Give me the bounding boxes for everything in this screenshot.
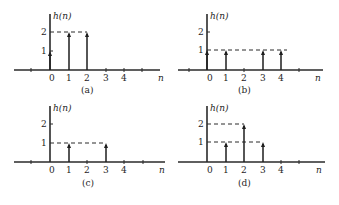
x-tick-0: 0 bbox=[49, 165, 55, 175]
y-tick-2: 2 bbox=[41, 27, 47, 37]
x-tick-1: 1 bbox=[66, 73, 72, 83]
y-axis-label: h(n) bbox=[53, 11, 72, 21]
panel-caption: (a) bbox=[81, 85, 93, 95]
figure-canvas: h(n) 2 1 0 1 2 3 4 n (a) h(n) 2 1 0 1 2 … bbox=[0, 0, 339, 205]
x-tick-2: 2 bbox=[241, 73, 247, 83]
x-tick-3: 3 bbox=[103, 165, 109, 175]
arrow-icon bbox=[224, 50, 228, 55]
y-tick-1: 1 bbox=[198, 45, 204, 55]
y-tick-2: 2 bbox=[41, 119, 47, 129]
panel-d: h(n) 2 1 0 1 2 3 4 n (d) bbox=[178, 103, 325, 188]
x-tick-0: 0 bbox=[207, 165, 213, 175]
arrow-icon bbox=[48, 51, 52, 56]
y-axis-label: h(n) bbox=[210, 11, 229, 21]
x-tick-0: 0 bbox=[207, 73, 213, 83]
arrow-icon bbox=[85, 32, 89, 37]
x-tick-4: 4 bbox=[278, 165, 284, 175]
arrow-icon bbox=[242, 124, 246, 129]
panel-caption: (d) bbox=[238, 178, 251, 188]
x-tick-4: 4 bbox=[278, 73, 284, 83]
x-tick-1: 1 bbox=[66, 165, 72, 175]
y-tick-1: 1 bbox=[41, 138, 47, 148]
y-tick-1: 1 bbox=[198, 137, 204, 147]
x-tick-3: 3 bbox=[260, 165, 266, 175]
y-tick-1: 1 bbox=[41, 46, 47, 56]
arrow-icon bbox=[224, 142, 228, 147]
x-tick-4: 4 bbox=[121, 165, 127, 175]
arrow-icon bbox=[104, 143, 108, 148]
y-tick-2: 2 bbox=[198, 119, 204, 129]
x-axis-label: n bbox=[158, 73, 164, 83]
x-tick-2: 2 bbox=[84, 73, 90, 83]
x-axis-label: n bbox=[315, 73, 321, 83]
arrow-icon bbox=[279, 50, 283, 55]
arrow-icon bbox=[261, 142, 265, 147]
panel-caption: (c) bbox=[82, 178, 94, 188]
x-tick-0: 0 bbox=[49, 73, 55, 83]
x-tick-4: 4 bbox=[121, 73, 127, 83]
x-tick-1: 1 bbox=[223, 165, 229, 175]
y-axis-label: h(n) bbox=[210, 103, 229, 113]
y-axis-label: h(n) bbox=[53, 103, 72, 113]
x-tick-2: 2 bbox=[241, 165, 247, 175]
arrow-icon bbox=[67, 32, 71, 37]
arrow-icon bbox=[205, 50, 209, 55]
x-tick-3: 3 bbox=[260, 73, 266, 83]
arrow-icon bbox=[67, 143, 71, 148]
x-axis-label: n bbox=[316, 165, 322, 175]
panel-c: h(n) 2 1 0 1 2 3 4 n (c) bbox=[14, 103, 165, 188]
x-axis-label: n bbox=[159, 165, 165, 175]
y-tick-2: 2 bbox=[198, 27, 204, 37]
x-tick-1: 1 bbox=[223, 73, 229, 83]
panel-b: h(n) 2 1 0 1 2 3 4 n (b) bbox=[178, 11, 323, 95]
arrow-icon bbox=[261, 50, 265, 55]
panel-a: h(n) 2 1 0 1 2 3 4 n (a) bbox=[14, 11, 164, 95]
x-tick-2: 2 bbox=[84, 165, 90, 175]
panel-caption: (b) bbox=[238, 85, 251, 95]
x-tick-3: 3 bbox=[103, 73, 109, 83]
